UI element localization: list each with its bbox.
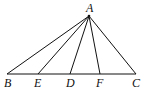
segment-AC	[89, 16, 136, 74]
label-F: F	[96, 77, 103, 89]
label-E: E	[34, 77, 41, 89]
label-C: C	[132, 77, 140, 89]
label-A: A	[86, 2, 93, 14]
segment-AD	[70, 16, 89, 74]
triangle-diagram: A B E D F C	[0, 0, 154, 92]
vertex-A-dot	[88, 15, 91, 18]
label-D: D	[66, 77, 75, 89]
segment-AB	[7, 16, 89, 74]
segment-AE	[38, 16, 89, 74]
segment-AF	[89, 16, 100, 74]
label-B: B	[4, 77, 11, 89]
diagram-lines	[0, 0, 154, 92]
